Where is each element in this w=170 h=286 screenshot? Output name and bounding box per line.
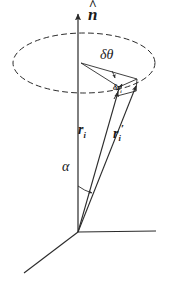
wedge-closing-edge	[119, 79, 137, 87]
label-axis-normal: ^ n	[88, 6, 97, 23]
label-ri-prime-subscript: i	[118, 133, 120, 143]
label-delta-ri-subscript: i	[120, 89, 121, 94]
vector-ri-prime	[78, 86, 136, 232]
axis-horizontal	[78, 231, 156, 232]
label-alpha: α	[62, 160, 69, 174]
vector-ri	[78, 92, 118, 232]
rotation-vector-diagram: ^ n δθ δri ri ri′ α	[0, 0, 170, 286]
axis-diagonal-depth	[24, 232, 78, 273]
diagram-canvas	[0, 0, 170, 286]
rotation-circle-dashed	[13, 33, 155, 93]
radius-line-to-ri	[81, 63, 137, 79]
wedge-tick-right	[136, 79, 137, 91]
label-delta-theta: δθ	[100, 48, 113, 62]
label-ri: ri	[78, 123, 86, 139]
label-ri-prime: ri′	[113, 123, 124, 143]
label-ri-subscript: i	[83, 130, 85, 140]
label-ri-prime-mark: ′	[121, 122, 124, 134]
hat-accent-icon: ^	[89, 0, 97, 13]
label-delta-ri: δri	[113, 84, 122, 95]
